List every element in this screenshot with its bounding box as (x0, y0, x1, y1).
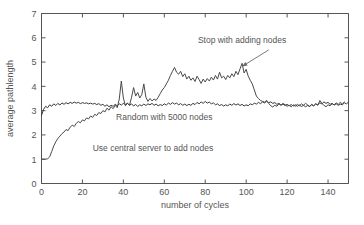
line-chart: 020406080100120140 01234567 number of cy… (0, 0, 364, 225)
x-axis-title: number of cycles (161, 200, 230, 210)
annotation-central-server: Use central server to add nodes (93, 143, 213, 153)
x-tick-label: 60 (159, 187, 169, 197)
y-tick-label: 7 (31, 9, 36, 19)
x-tick-label: 20 (77, 187, 87, 197)
chart-figure: 020406080100120140 01234567 number of cy… (0, 0, 364, 225)
y-tick-label: 3 (31, 106, 36, 116)
y-tick-label: 2 (31, 130, 36, 140)
y-tick-label: 0 (31, 179, 36, 189)
y-tick-label: 6 (31, 33, 36, 43)
x-tick-label: 80 (200, 187, 210, 197)
y-axis-title: average pathlength (5, 60, 15, 137)
x-tick-label: 40 (118, 187, 128, 197)
annotation-random-5000: Random with 5000 nodes (116, 112, 212, 122)
x-tick-label: 140 (321, 187, 336, 197)
y-tick-label: 4 (31, 82, 36, 92)
x-tick-label: 0 (39, 187, 44, 197)
x-tick-label: 100 (239, 187, 254, 197)
y-tick-label: 5 (31, 57, 36, 67)
annotation-stop-adding: Stop with adding nodes (198, 35, 286, 45)
y-tick-label: 1 (31, 155, 36, 165)
x-tick-label: 120 (280, 187, 295, 197)
